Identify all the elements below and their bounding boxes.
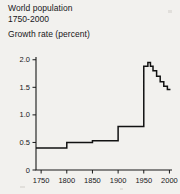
y-tick-label: 0 <box>26 166 30 175</box>
x-tick-label: 1800 <box>58 176 75 185</box>
y-axis-tick-labels: 00.51.01.52.0 <box>20 55 30 174</box>
chart-plot-area: 00.51.01.52.0 175018001850190019502000 <box>0 0 180 194</box>
chart-axes <box>36 57 172 170</box>
y-tick-label: 1.5 <box>20 83 30 92</box>
y-tick-label: 2.0 <box>20 55 30 64</box>
x-tick-label: 1950 <box>135 176 152 185</box>
y-tick-label: 1.0 <box>20 110 30 119</box>
y-tick-label: 0.5 <box>20 138 30 147</box>
chart-figure: World population 1750-2000 Growth rate (… <box>0 0 180 194</box>
x-tick-label: 1750 <box>33 176 50 185</box>
x-tick-label: 1900 <box>110 176 127 185</box>
x-tick-label: 2000 <box>161 176 178 185</box>
x-tick-label: 1850 <box>84 176 101 185</box>
growth-rate-step-line <box>36 63 170 148</box>
x-axis-tick-labels: 175018001850190019502000 <box>33 176 178 185</box>
